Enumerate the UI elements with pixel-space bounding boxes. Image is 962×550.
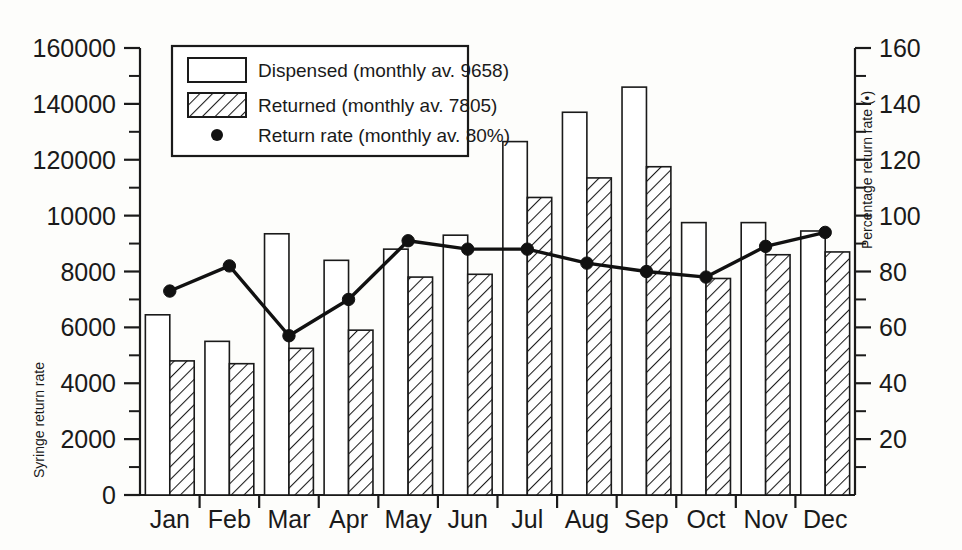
left-tick-label: 10000 — [46, 202, 116, 230]
bar-returned-nov — [766, 255, 790, 495]
left-tick-label: 140000 — [33, 90, 116, 118]
left-tick-label: 6000 — [60, 313, 116, 341]
bar-dispensed-jul — [503, 142, 527, 495]
month-label-oct: Oct — [687, 505, 726, 533]
bar-returned-mar — [289, 348, 313, 495]
month-label-jul: Jul — [511, 505, 543, 533]
return-rate-point-dec — [819, 226, 831, 238]
bar-dispensed-may — [384, 249, 408, 495]
month-label-mar: Mar — [267, 505, 310, 533]
legend-swatch-return-rate — [211, 129, 223, 141]
right-axis-title: Percentage return rate (•) — [859, 91, 875, 249]
return-rate-point-sep — [640, 265, 652, 277]
legend-label-dispensed: Dispensed (monthly av. 9658) — [258, 60, 509, 81]
bar-returned-jan — [170, 361, 194, 495]
bar-returned-oct — [706, 278, 730, 495]
month-label-jan: Jan — [150, 505, 190, 533]
right-tick-label: 60 — [879, 313, 907, 341]
legend-swatch-returned — [188, 93, 246, 117]
chart-container: 0200040006000800010000120000140000160000… — [0, 0, 962, 550]
bar-dispensed-sep — [622, 87, 646, 495]
month-label-aug: Aug — [565, 505, 609, 533]
month-label-sep: Sep — [624, 505, 668, 533]
bar-dispensed-mar — [265, 234, 289, 495]
return-rate-point-mar — [283, 330, 295, 342]
return-rate-point-jan — [164, 285, 176, 297]
left-tick-label: 0 — [102, 481, 116, 509]
bar-dispensed-oct — [682, 223, 706, 495]
return-rate-point-apr — [342, 293, 354, 305]
bar-returned-apr — [349, 330, 373, 495]
month-label-dec: Dec — [803, 505, 847, 533]
right-tick-label: 160 — [879, 34, 921, 62]
return-rate-point-jun — [462, 243, 474, 255]
right-tick-label: 80 — [879, 258, 907, 286]
bar-returned-dec — [825, 252, 849, 495]
return-rate-point-oct — [700, 271, 712, 283]
syringe-return-rate-chart: 0200040006000800010000120000140000160000… — [0, 0, 962, 550]
bar-returned-may — [408, 277, 432, 495]
month-label-jun: Jun — [448, 505, 488, 533]
legend-label-returned: Returned (monthly av. 7805) — [258, 95, 497, 116]
bar-dispensed-dec — [801, 231, 825, 495]
return-rate-point-nov — [759, 240, 771, 252]
left-axis-title: Syringe return rate — [31, 362, 47, 478]
return-rate-point-aug — [581, 257, 593, 269]
right-tick-label: 120 — [879, 146, 921, 174]
left-tick-label: 160000 — [33, 34, 116, 62]
return-rate-point-may — [402, 235, 414, 247]
bar-returned-sep — [646, 167, 670, 495]
month-label-feb: Feb — [208, 505, 251, 533]
right-tick-label: 40 — [879, 369, 907, 397]
right-tick-label: 20 — [879, 425, 907, 453]
bar-returned-jul — [527, 197, 551, 495]
month-label-may: May — [385, 505, 433, 533]
right-tick-label: 140 — [879, 90, 921, 118]
left-tick-label: 4000 — [60, 369, 116, 397]
bar-dispensed-jan — [145, 315, 169, 495]
bar-dispensed-jun — [443, 235, 467, 495]
bar-returned-feb — [229, 364, 253, 495]
legend-swatch-dispensed — [188, 58, 246, 82]
left-tick-label: 120000 — [33, 146, 116, 174]
month-label-apr: Apr — [329, 505, 368, 533]
bar-returned-jun — [468, 274, 492, 495]
bar-dispensed-nov — [741, 223, 765, 495]
return-rate-point-feb — [223, 260, 235, 272]
bar-dispensed-feb — [205, 341, 229, 495]
left-tick-label: 2000 — [60, 425, 116, 453]
right-tick-label: 100 — [879, 202, 921, 230]
legend-label-return-rate: Return rate (monthly av. 80%) — [258, 125, 510, 146]
chart-legend: Dispensed (monthly av. 9658) Returned (m… — [172, 46, 510, 156]
left-tick-label: 8000 — [60, 258, 116, 286]
bar-returned-aug — [587, 178, 611, 495]
month-label-nov: Nov — [743, 505, 788, 533]
bar-dispensed-aug — [562, 112, 586, 495]
return-rate-point-jul — [521, 243, 533, 255]
